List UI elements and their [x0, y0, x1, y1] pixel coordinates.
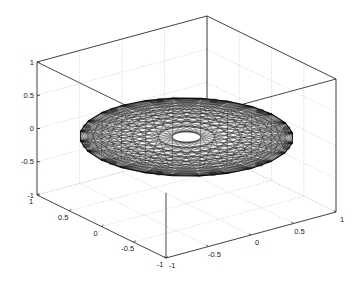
y-tick-label: -0.5 — [121, 244, 134, 253]
x-tick-label: 0 — [255, 238, 259, 247]
y-tick-label: 1 — [29, 197, 33, 206]
matlab-3d-figure: -1-0.500.51 -1-0.500.51 -1-0.500.51 — [0, 0, 360, 284]
x-axis-ticks: -1-0.500.51 — [164, 211, 344, 271]
x-tick-label: 1 — [340, 215, 344, 224]
z-tick-label: 0 — [30, 124, 34, 133]
x-tick-label: -1 — [169, 261, 176, 270]
y-axis-ticks: -1-0.500.51 — [29, 194, 168, 270]
disk-mesh-surface — [81, 98, 293, 176]
x-tick-label: 0.5 — [294, 227, 304, 236]
3d-axes: -1-0.500.51 -1-0.500.51 -1-0.500.51 — [0, 0, 360, 284]
z-tick-label: 0.5 — [24, 91, 34, 100]
y-tick-label: -1 — [157, 260, 164, 269]
z-tick-label: 1 — [30, 58, 34, 67]
z-tick-label: -0.5 — [21, 157, 34, 166]
y-tick-label: 0 — [93, 229, 97, 238]
y-tick-label: 0.5 — [58, 213, 68, 222]
x-tick-label: -0.5 — [208, 250, 221, 259]
